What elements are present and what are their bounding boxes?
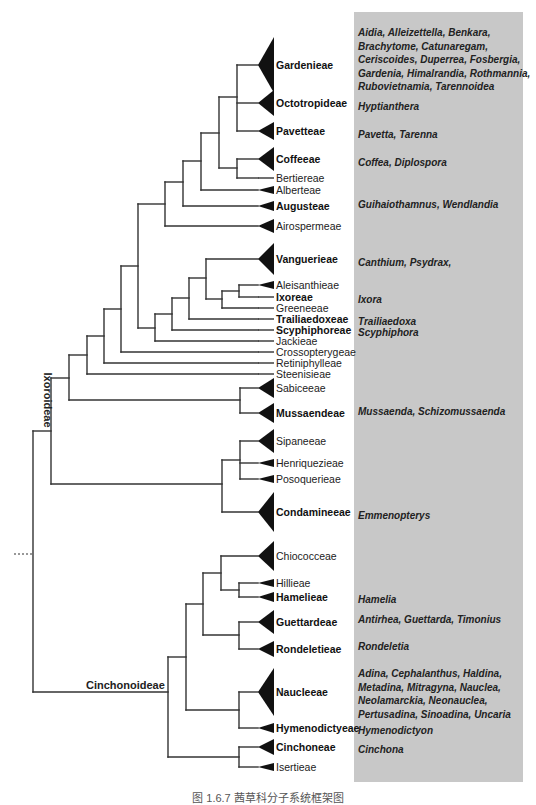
collapsed-clade-triangle-icon xyxy=(258,403,274,423)
genera-list-naucleeae: Adina, Cephalanthus, Haldina, xyxy=(357,668,502,679)
tribe-label-aleisanthieae: Aleisanthieae xyxy=(276,279,339,291)
tribe-label-coffeeae: Coffeeae xyxy=(276,153,321,165)
collapsed-clade-triangle-icon xyxy=(258,475,274,483)
tribe-label-chiococceae: Chiococceae xyxy=(276,550,337,562)
genera-list-augusteae: Guihaiothamnus, Wendlandia xyxy=(358,199,499,210)
tribe-label-mussaendeae: Mussaendeae xyxy=(276,407,345,419)
collapsed-clade-triangle-icon xyxy=(258,723,274,733)
genera-list-ixoreae: Ixora xyxy=(358,294,382,305)
tribe-label-condamineeae: Condamineeae xyxy=(276,506,351,518)
tribe-label-airospermeae: Airospermeae xyxy=(276,220,342,232)
genera-list-gardenieae: Brachytome, Catunaregam, xyxy=(358,41,488,52)
collapsed-clade-triangle-icon xyxy=(258,763,274,771)
collapsed-clade-triangle-icon xyxy=(258,378,274,398)
collapsed-clade-triangle-icon xyxy=(258,37,274,93)
tribe-label-gardenieae: Gardenieae xyxy=(276,59,333,71)
collapsed-clade-triangle-icon xyxy=(258,459,274,467)
collapsed-clade-triangle-icon xyxy=(258,186,274,194)
collapsed-clade-triangle-icon xyxy=(258,281,274,289)
tribe-label-naucleeae: Naucleeae xyxy=(276,686,328,698)
collapsed-clade-triangle-icon xyxy=(258,579,274,587)
tribe-label-cinchoneae: Cinchoneae xyxy=(276,741,336,753)
genera-list-rondeletieae: Rondeletia xyxy=(358,641,410,652)
genera-list-vanguerieae: Canthium, Psydrax, xyxy=(358,257,451,268)
collapsed-clade-triangle-icon xyxy=(258,429,274,453)
collapsed-clade-triangle-icon xyxy=(258,122,274,140)
tribe-label-alberteae: Alberteae xyxy=(276,184,321,196)
collapsed-clade-triangle-icon xyxy=(258,147,274,171)
tribe-label-vanguerieae: Vanguerieae xyxy=(276,253,338,265)
tribe-label-sipaneeae: Sipaneeae xyxy=(276,435,326,447)
collapsed-clade-triangle-icon xyxy=(258,592,274,602)
genera-list-gardenieae: Aidia, Alleizettella, Benkara, xyxy=(357,27,490,38)
genera-list-scyphiphoreae: Scyphiphora xyxy=(358,327,419,338)
figure-caption: 图 1.6.7 茜草科分子系统框架图 xyxy=(0,789,536,805)
tribe-label-rondeletieae: Rondeletieae xyxy=(276,643,342,655)
collapsed-clade-triangle-icon xyxy=(258,243,274,275)
genera-list-naucleeae: Metadina, Mitragyna, Nauclea, xyxy=(358,682,501,693)
genera-list-naucleeae: Pertusadina, Sinoadina, Uncaria xyxy=(358,709,511,720)
genera-list-condamineeae: Emmenopterys xyxy=(358,510,431,521)
subfamily-label-ixoroideae: Ixoroideae xyxy=(42,372,54,427)
tribe-label-isertieae: Isertieae xyxy=(276,761,316,773)
genera-list-hymenodictyeae: Hymenodictyon xyxy=(358,725,433,736)
collapsed-clade-triangle-icon xyxy=(258,668,274,716)
tribe-label-hymenodictyeae: Hymenodictyeae xyxy=(276,722,360,734)
genera-list-trailiaedoxeae: Trailiaedoxa xyxy=(358,316,417,327)
genera-list-gardenieae: Gardenia, Himalrandia, Rothmannia, xyxy=(358,68,530,79)
subfamily-label-cinchonoideae: Cinchonoideae xyxy=(86,679,165,691)
tribe-label-hamelieae: Hamelieae xyxy=(276,591,328,603)
tribe-label-bertiereae: Bertiereae xyxy=(276,172,325,184)
tribe-label-posoquerieae: Posoquerieae xyxy=(276,473,341,485)
genera-list-hamelieae: Hamelia xyxy=(358,594,397,605)
tribe-label-guettardeae: Guettardeae xyxy=(276,616,337,628)
collapsed-clade-triangle-icon xyxy=(258,739,274,755)
genera-list-guettardeae: Antirhea, Guettarda, Timonius xyxy=(357,614,502,625)
collapsed-clade-triangle-icon xyxy=(258,219,274,233)
genera-list-cinchoneae: Cinchona xyxy=(358,744,404,755)
genera-list-coffeeae: Coffea, Diplospora xyxy=(358,157,447,168)
tribe-label-hillieae: Hillieae xyxy=(276,577,311,589)
collapsed-clade-triangle-icon xyxy=(258,541,274,571)
collapsed-clade-triangle-icon xyxy=(258,610,274,634)
collapsed-clade-triangle-icon xyxy=(258,492,274,532)
tribe-label-henriquezieae: Henriquezieae xyxy=(276,457,344,469)
genera-list-naucleeae: Neolamarckia, Neonauclea, xyxy=(358,695,488,706)
tribe-label-octotropideae: Octotropideae xyxy=(276,97,347,109)
genera-list-gardenieae: Rubovietnamia, Tarennoidea xyxy=(358,81,495,92)
genera-list-gardenieae: Ceriscoides, Duperrea, Fosbergia, xyxy=(358,54,520,65)
tribe-label-steenisieae: Steenisieae xyxy=(276,368,331,380)
tribe-label-pavetteae: Pavetteae xyxy=(276,125,325,137)
genera-list-octotropideae: Hyptianthera xyxy=(358,101,420,112)
collapsed-clade-triangle-icon xyxy=(258,641,274,657)
tribe-label-augusteae: Augusteae xyxy=(276,200,330,212)
collapsed-clade-triangle-icon xyxy=(258,201,274,211)
genera-list-mussaendeae: Mussaenda, Schizomussaenda xyxy=(358,406,506,417)
tribe-label-sabiceeae: Sabiceeae xyxy=(276,382,326,394)
collapsed-clade-triangle-icon xyxy=(258,90,274,116)
genera-list-pavetteae: Pavetta, Tarenna xyxy=(358,129,438,140)
